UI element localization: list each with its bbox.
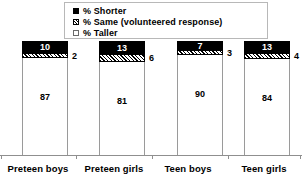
bar-group-preteen-boys: 10 2 87	[22, 41, 68, 155]
segment-shorter[interactable]: 10	[22, 41, 68, 54]
axis-tick	[152, 155, 153, 159]
value-label-same: 2	[72, 51, 77, 60]
axis-tick	[228, 155, 229, 159]
stacked-bar[interactable]: 7 3 90	[177, 41, 223, 155]
stacked-bar[interactable]: 13 4 84	[244, 41, 290, 155]
value-label-taller: 84	[262, 94, 272, 103]
value-label-same: 6	[149, 54, 154, 63]
solid-black-square-icon	[73, 8, 79, 14]
value-label-same: 3	[227, 48, 232, 57]
chart-legend: % Shorter % Same (volunteered response) …	[64, 2, 268, 39]
white-square-icon	[73, 30, 79, 36]
bar-group-teen-boys: 7 3 90	[177, 41, 223, 155]
legend-label-taller: % Taller	[83, 28, 118, 38]
axis-tick	[300, 155, 301, 159]
segment-taller[interactable]: 84	[244, 59, 290, 155]
stacked-bar[interactable]: 10 2 87	[22, 41, 68, 155]
x-axis-line	[0, 155, 302, 156]
legend-item-same: % Same (volunteered response)	[73, 17, 267, 28]
segment-shorter[interactable]: 13	[244, 41, 290, 54]
segment-shorter[interactable]: 13	[99, 41, 145, 55]
category-label-teen-girls: Teen girls	[226, 163, 302, 175]
value-label-shorter: 10	[40, 43, 50, 52]
legend-item-taller: % Taller	[73, 28, 267, 39]
value-label-shorter: 13	[262, 43, 272, 52]
axis-tick	[1, 155, 2, 159]
category-label-preteen-girls: Preteen girls	[76, 163, 152, 175]
value-label-shorter: 13	[117, 44, 127, 53]
legend-label-shorter: % Shorter	[83, 6, 126, 16]
segment-taller[interactable]: 87	[22, 58, 68, 155]
segment-shorter[interactable]: 7	[177, 41, 223, 51]
hatched-square-icon	[73, 19, 79, 25]
value-label-taller: 87	[40, 93, 50, 102]
bar-group-preteen-girls: 13 6 81	[99, 41, 145, 155]
category-label-teen-boys: Teen boys	[150, 163, 226, 175]
x-axis-labels: Preteen boys Preteen girls Teen boys Tee…	[0, 163, 302, 179]
value-label-same: 4	[294, 52, 299, 61]
category-label-preteen-boys: Preteen boys	[0, 163, 76, 175]
value-label-taller: 90	[195, 90, 205, 99]
segment-same[interactable]: 6	[99, 55, 145, 62]
value-label-taller: 81	[117, 97, 127, 106]
segment-taller[interactable]: 90	[177, 55, 223, 155]
axis-tick	[76, 155, 77, 159]
stacked-bar[interactable]: 13 6 81	[99, 41, 145, 155]
value-label-shorter: 7	[197, 42, 202, 51]
legend-label-same: % Same (volunteered response)	[83, 17, 222, 27]
plot-area: 10 2 87 13 6 81 7	[0, 41, 302, 155]
bar-group-teen-girls: 13 4 84	[244, 41, 290, 155]
legend-item-shorter: % Shorter	[73, 6, 267, 17]
segment-taller[interactable]: 81	[99, 62, 145, 155]
